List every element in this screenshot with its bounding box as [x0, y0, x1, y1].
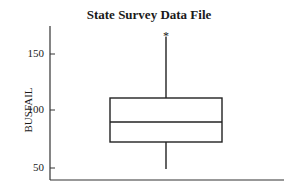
outlier-marker: *	[163, 29, 169, 43]
box-plot: *	[0, 0, 298, 191]
iqr-box	[110, 98, 222, 142]
